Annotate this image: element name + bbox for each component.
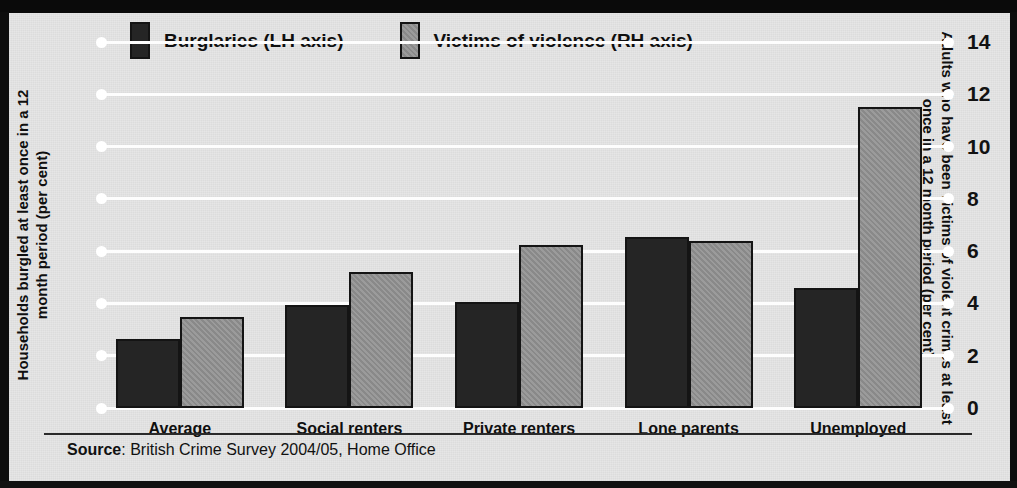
y-axis-left-tick-dot — [96, 246, 107, 257]
y-axis-left-title: Households burgled at least once in a 12… — [14, 85, 52, 385]
y-axis-right-tick-dot — [943, 298, 954, 309]
top-black-band — [0, 0, 1017, 13]
bar-social-renters-grey — [349, 272, 413, 408]
bar-lone-parents-dark — [625, 237, 689, 408]
bar-unemployed-grey — [858, 107, 922, 408]
gridline — [101, 41, 949, 44]
source-separator: : — [121, 441, 130, 458]
y-axis-left-tick-dot — [96, 298, 107, 309]
x-axis-category-label: Private renters — [463, 420, 575, 438]
chart-figure: Burglaries (LH axis) Victims of violence… — [0, 0, 1017, 488]
y-axis-left-tick-dot — [96, 37, 107, 48]
x-axis-category-label: Lone parents — [638, 420, 738, 438]
bar-private-renters-dark — [455, 302, 519, 408]
x-axis-category-label: Average — [149, 420, 212, 438]
source-text: British Crime Survey 2004/05, Home Offic… — [130, 441, 436, 458]
x-axis-category-label: Social renters — [296, 420, 402, 438]
y-axis-left-tick-dot — [96, 350, 107, 361]
bar-unemployed-dark — [794, 288, 858, 408]
y-axis-right-tick-dot — [943, 89, 954, 100]
frame-border-right — [1010, 12, 1017, 488]
plot-area: 0022446688101012121414AverageSocial rent… — [101, 42, 949, 408]
y-axis-right-tick-dot — [943, 246, 954, 257]
bar-average-dark — [116, 339, 180, 408]
y-axis-right-tick-label: 4 — [967, 292, 1007, 313]
bar-private-renters-grey — [519, 245, 583, 408]
x-axis-category-label: Unemployed — [810, 420, 906, 438]
source-note: Source: British Crime Survey 2004/05, Ho… — [67, 441, 436, 459]
y-axis-right-tick-label: 14 — [967, 31, 1007, 52]
y-axis-right-tick-dot — [943, 403, 954, 414]
y-axis-right-tick-dot — [943, 141, 954, 152]
bar-social-renters-dark — [285, 305, 349, 408]
y-axis-right-tick-label: 8 — [967, 188, 1007, 209]
y-axis-left-tick-dot — [96, 89, 107, 100]
y-axis-right-tick-dot — [943, 37, 954, 48]
gridline — [101, 197, 949, 200]
frame-border-bottom — [0, 481, 1017, 488]
bar-average-grey — [180, 317, 244, 409]
y-axis-right-tick-label: 12 — [967, 83, 1007, 104]
gridline — [101, 93, 949, 96]
y-axis-right-tick-label: 2 — [967, 345, 1007, 366]
y-axis-right-tick-label: 10 — [967, 136, 1007, 157]
source-divider-rule — [44, 433, 972, 435]
y-axis-left-tick-dot — [96, 193, 107, 204]
y-axis-left-tick-dot — [96, 403, 107, 414]
y-axis-right-tick-label: 6 — [967, 240, 1007, 261]
source-label: Source — [67, 441, 121, 458]
y-axis-left-tick-dot — [96, 141, 107, 152]
y-axis-right-tick-label: 0 — [967, 397, 1007, 418]
bar-lone-parents-grey — [689, 241, 753, 408]
frame-border-left — [0, 12, 9, 488]
gridline — [101, 145, 949, 148]
